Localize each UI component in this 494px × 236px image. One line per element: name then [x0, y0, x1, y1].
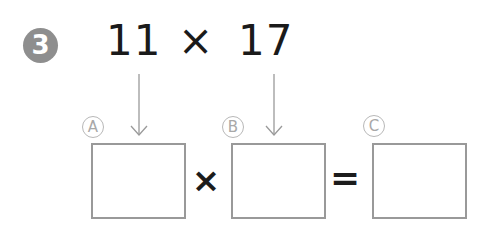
label-circle-a: A	[82, 116, 104, 138]
equals-sign: =	[329, 158, 361, 198]
label-circle-c: C	[363, 115, 385, 137]
answer-box-a[interactable]	[91, 143, 186, 219]
answer-box-b[interactable]	[231, 143, 326, 219]
label-circle-b: B	[222, 116, 244, 138]
arrow-down-icon-a	[131, 74, 147, 135]
multiply-sign: ×	[190, 160, 222, 200]
arrow-down-icon-b	[266, 74, 282, 135]
answer-box-c[interactable]	[372, 143, 467, 219]
